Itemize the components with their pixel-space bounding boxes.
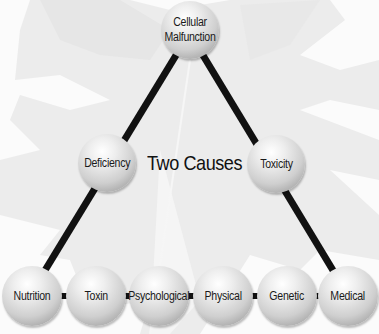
node-toxicity: Toxicity [247,135,305,193]
node-nutrition: Nutrition [2,266,62,326]
node-cellular-malfunction: Cellular Malfunction [161,1,219,59]
node-medical: Medical [318,266,378,326]
node-deficiency: Deficiency [78,134,136,192]
node-label: Cellular Malfunction [164,15,215,45]
node-label: Psychological [128,289,189,304]
node-label: Toxin [84,289,107,304]
diagram-title: Two Causes [147,151,242,175]
node-label: Medical [331,289,366,304]
node-physical: Physical [193,266,253,326]
node-label: Toxicity [260,157,293,172]
node-psychological: Psychological [129,266,189,326]
diagram-canvas: Cellular Malfunction Deficiency Two Caus… [0,0,379,334]
node-label: Physical [204,289,241,304]
node-genetic: Genetic [257,266,317,326]
node-toxin: Toxin [66,266,126,326]
node-label: Nutrition [14,289,51,304]
node-label: Deficiency [84,156,130,171]
node-label: Genetic [270,289,305,304]
